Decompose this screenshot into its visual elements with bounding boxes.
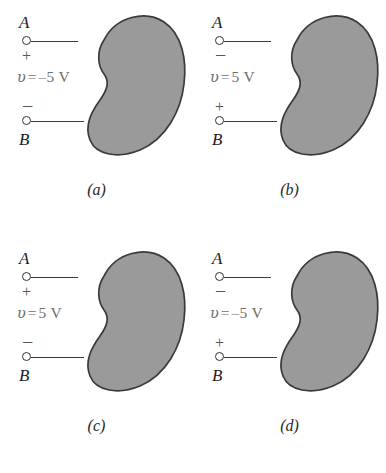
wire-top-c — [31, 277, 78, 278]
circuit-element-blob-a — [74, 8, 186, 158]
node-label-a-top-d: A — [212, 250, 223, 267]
voltage-symbol-b: υ — [210, 69, 219, 85]
voltage-value-d: –5 V — [232, 304, 263, 321]
circuit-element-blob-c — [74, 244, 186, 394]
polarity-sign-bottom-d: + — [215, 335, 224, 351]
voltage-equals-c: = — [26, 304, 39, 321]
polarity-sign-bottom-c: − — [22, 332, 33, 352]
wire-bottom-a — [31, 121, 84, 122]
terminal-node-a-top[interactable] — [22, 36, 31, 45]
polarity-sign-top-c: + — [22, 284, 31, 300]
node-label-b-bottom-b: B — [212, 131, 223, 148]
caption-a: (a) — [0, 181, 193, 199]
node-label-b-bottom-d: B — [212, 367, 223, 384]
voltage-equals-a: = — [26, 68, 39, 85]
wire-top-b — [224, 41, 271, 42]
caption-d: (d) — [193, 417, 386, 435]
node-label-a-top: A — [19, 14, 30, 31]
wire-top-a — [31, 41, 78, 42]
polarity-sign-top-d: − — [215, 281, 226, 301]
voltage-symbol-d: υ — [210, 305, 219, 321]
voltage-label-a: υ=–5 V — [17, 69, 70, 85]
wire-bottom-c — [31, 357, 84, 358]
node-label-b-bottom-a: B — [19, 131, 30, 148]
circuit-element-blob-d — [267, 244, 379, 394]
voltage-symbol-c: υ — [17, 305, 26, 321]
node-label-a-top-b: A — [212, 14, 223, 31]
panel-b: A − υ=5 V + B (b) — [193, 0, 386, 236]
panel-a: A + υ=–5 V − B (a) — [0, 0, 193, 236]
polarity-sign-top-a: + — [22, 48, 31, 64]
panel-c: A + υ=5 V − B (c) — [0, 236, 193, 472]
terminal-node-b-bottom-b[interactable] — [215, 116, 224, 125]
wire-bottom-b — [224, 121, 277, 122]
terminal-node-b-bottom-d[interactable] — [215, 352, 224, 361]
polarity-sign-bottom-a: − — [22, 96, 33, 116]
voltage-equals-d: = — [219, 304, 232, 321]
caption-b: (b) — [193, 181, 386, 199]
polarity-sign-top-b: − — [215, 45, 226, 65]
voltage-value-c: 5 V — [39, 304, 62, 321]
voltage-label-b: υ=5 V — [210, 69, 255, 85]
voltage-label-c: υ=5 V — [17, 305, 62, 321]
voltage-equals-b: = — [219, 68, 232, 85]
node-label-b-bottom-c: B — [19, 367, 30, 384]
panel-d: A − υ=–5 V + B (d) — [193, 236, 386, 472]
circuit-element-blob-b — [267, 8, 379, 158]
voltage-label-d: υ=–5 V — [210, 305, 263, 321]
voltage-value-a: –5 V — [39, 68, 70, 85]
node-label-a-top-c: A — [19, 250, 30, 267]
circuit-figure: A + υ=–5 V − B (a) A − υ=5 V + B (b) — [0, 0, 386, 473]
voltage-value-b: 5 V — [232, 68, 255, 85]
wire-bottom-d — [224, 357, 277, 358]
wire-top-d — [224, 277, 271, 278]
polarity-sign-bottom-b: + — [215, 99, 224, 115]
terminal-node-b-bottom-c[interactable] — [22, 352, 31, 361]
terminal-node-b-bottom-a[interactable] — [22, 116, 31, 125]
terminal-node-a-top-c[interactable] — [22, 272, 31, 281]
caption-c: (c) — [0, 417, 193, 435]
voltage-symbol-a: υ — [17, 69, 26, 85]
